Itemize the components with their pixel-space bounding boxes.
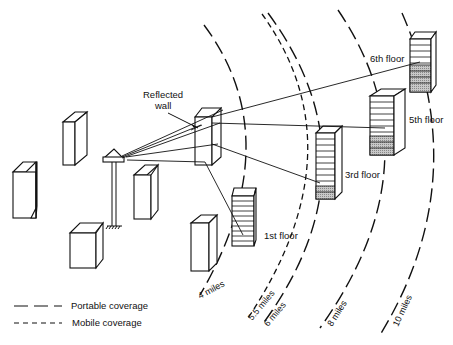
building-1st-floor <box>232 188 256 246</box>
label-3rd-floor: 3rd floor <box>345 169 380 180</box>
reflected-wall-label-2: wall <box>154 100 171 111</box>
svg-text:Mobile coverage: Mobile coverage <box>72 317 142 328</box>
building-3rd-floor <box>316 126 342 199</box>
building <box>134 165 158 219</box>
ring-5-5-miles <box>248 14 308 318</box>
plain-buildings <box>13 112 217 271</box>
legend-item-portable: Portable coverage <box>14 300 148 311</box>
building-6th-floor <box>410 32 436 92</box>
coverage-diagram: Reflected wall 1st floor 3rd floor 5th f… <box>0 0 453 345</box>
ring-labels: 4 miles 5.5 miles 6 miles 8 miles 10 mil… <box>196 278 414 328</box>
building-5th-floor <box>370 89 405 155</box>
building <box>191 215 217 271</box>
reflected-wall-label: Reflected <box>143 89 183 100</box>
legend: Portable coverage Mobile coverage <box>14 300 148 328</box>
label-1st-floor: 1st floor <box>264 230 298 241</box>
label-5th-floor: 5th floor <box>409 114 443 125</box>
antenna-tower <box>103 149 124 229</box>
building <box>13 162 37 218</box>
ring-label-4: 4 miles <box>196 278 226 300</box>
ring-6-miles <box>262 13 323 325</box>
svg-text:Portable coverage: Portable coverage <box>71 300 148 311</box>
legend-item-mobile: Mobile coverage <box>14 317 142 328</box>
ring-label-8: 8 miles <box>325 298 349 328</box>
label-6th-floor: 6th floor <box>370 53 404 64</box>
building <box>70 223 103 268</box>
building <box>63 112 87 165</box>
